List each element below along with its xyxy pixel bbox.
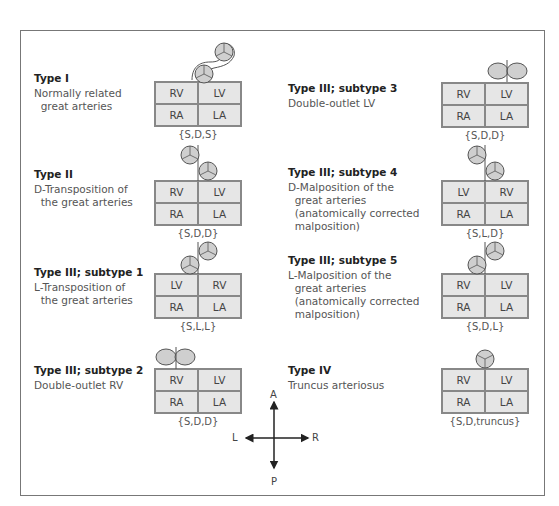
great-arteries-icon (465, 145, 515, 181)
label-type3-3: Type III; subtype 3 Double-outlet LV (288, 82, 397, 110)
chamber-label: LA (198, 203, 241, 225)
great-arteries-icon (488, 60, 528, 82)
label-type2: Type II D-Transposition of the great art… (34, 168, 133, 209)
heart-type3-4: LVRVRALA {S,L,D} (441, 180, 529, 239)
chamber-label: RA (155, 391, 198, 413)
chamber-label: LV (485, 83, 528, 105)
type-desc: Double-outlet RV (34, 379, 143, 392)
chamber-label: LV (198, 369, 241, 391)
chamber-label: LV (442, 181, 485, 203)
chamber-label: LV (198, 181, 241, 203)
truncus-icon (475, 349, 497, 369)
label-type3-1: Type III; subtype 1 L-Transposition of t… (34, 266, 143, 307)
type-desc: Truncus arteriosus (288, 379, 384, 392)
chamber-label: RA (155, 104, 198, 126)
chamber-label: LV (155, 274, 198, 296)
chamber-label: RV (442, 83, 485, 105)
heart-type2: RVLVRALA {S,D,D} (154, 180, 242, 239)
chamber-label: LV (198, 82, 241, 104)
type-title: Type IV (288, 364, 384, 377)
chamber-label: RA (442, 391, 485, 413)
type-desc: D-Malposition of the great arteries (ana… (288, 181, 419, 233)
type-desc: Double-outlet LV (288, 97, 397, 110)
heart-type4: RVLVRALA {S,D,truncus} (441, 368, 529, 427)
label-type1: Type I Normally related great arteries (34, 72, 122, 113)
chamber-label: LA (198, 296, 241, 318)
type-title: Type I (34, 72, 122, 85)
heart-type3-3: RVLVRALA {S,D,D} (441, 82, 529, 141)
chamber-label: RA (155, 203, 198, 225)
chamber-label: RV (155, 369, 198, 391)
segmental-code: {S,D,D} (154, 416, 242, 427)
type-title: Type III; subtype 5 (288, 254, 419, 267)
chamber-label: RV (155, 181, 198, 203)
segmental-code: {S,D,L} (441, 321, 529, 332)
chamber-label: RV (485, 181, 528, 203)
type-desc: D-Transposition of the great arteries (34, 183, 133, 209)
segmental-code: {S,L,L} (154, 321, 242, 332)
chamber-label: LA (485, 105, 528, 127)
chamber-label: RV (198, 274, 241, 296)
great-arteries-icon (178, 242, 228, 274)
type-title: Type II (34, 168, 133, 181)
chamber-label: RA (442, 203, 485, 225)
heart-type1: RVLVRALA {S,D,S} (154, 81, 242, 140)
type-desc: Normally related great arteries (34, 87, 122, 113)
chamber-label: RA (442, 296, 485, 318)
chamber-label: RV (155, 82, 198, 104)
chamber-label: LA (198, 391, 241, 413)
great-arteries-icon (156, 347, 196, 369)
chamber-label: LV (485, 369, 528, 391)
chamber-label: RV (442, 274, 485, 296)
type-title: Type III; subtype 3 (288, 82, 397, 95)
chamber-label: LV (485, 274, 528, 296)
chamber-label: LA (485, 296, 528, 318)
great-arteries-icon (465, 242, 515, 274)
chamber-label: RA (155, 296, 198, 318)
label-type4: Type IV Truncus arteriosus (288, 364, 384, 392)
segmental-code: {S,D,D} (154, 228, 242, 239)
type-desc: L-Malposition of the great arteries (ana… (288, 269, 419, 321)
segmental-code: {S,D,truncus} (441, 416, 529, 427)
compass-right: R (312, 432, 319, 443)
chamber-label: LA (485, 203, 528, 225)
label-type3-5: Type III; subtype 5 L-Malposition of the… (288, 254, 419, 321)
orientation-arrows-icon (240, 398, 316, 474)
heart-type3-2: RVLVRALA {S,D,D} (154, 368, 242, 427)
segmental-code: {S,L,D} (441, 228, 529, 239)
heart-type3-5: RVLVRALA {S,D,L} (441, 273, 529, 332)
segmental-code: {S,D,D} (441, 130, 529, 141)
segmental-code: {S,D,S} (154, 129, 242, 140)
chamber-label: LA (198, 104, 241, 126)
type-title: Type III; subtype 1 (34, 266, 143, 279)
chamber-label: RA (442, 105, 485, 127)
type-title: Type III; subtype 2 (34, 364, 143, 377)
label-type3-4: Type III; subtype 4 D-Malposition of the… (288, 166, 419, 233)
compass-anterior: A (270, 389, 277, 400)
heart-type3-1: LVRVRALA {S,L,L} (154, 273, 242, 332)
chamber-label: LA (485, 391, 528, 413)
type-desc: L-Transposition of the great arteries (34, 281, 143, 307)
compass-left: L (232, 432, 238, 443)
great-arteries-icon (178, 145, 228, 181)
label-type3-2: Type III; subtype 2 Double-outlet RV (34, 364, 143, 392)
chamber-label: RV (442, 369, 485, 391)
great-arteries-icon (190, 40, 240, 85)
compass-posterior: P (271, 476, 277, 487)
type-title: Type III; subtype 4 (288, 166, 419, 179)
